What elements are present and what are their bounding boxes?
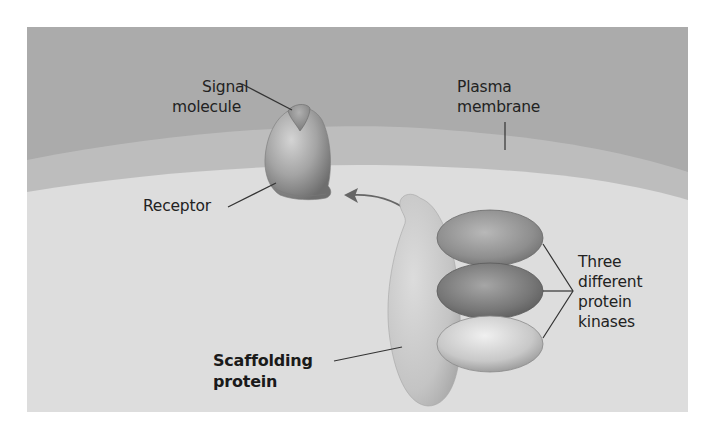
signal-molecule-label-line-2: molecule — [172, 97, 248, 117]
kinases-label-line-4: kinases — [578, 312, 642, 332]
scaffolding-protein-label: Scaffolding protein — [213, 350, 313, 392]
scaffolding-protein-label-line-1: Scaffolding — [213, 350, 313, 371]
plasma-membrane-label-line-2: membrane — [457, 97, 540, 117]
plasma-membrane-label-line-1: Plasma — [457, 77, 540, 97]
kinases-label-line-3: protein — [578, 292, 642, 312]
diagram-graphics — [0, 0, 715, 430]
panel-background — [27, 27, 688, 412]
receptor-label: Receptor — [143, 196, 211, 216]
protein-kinase-1 — [437, 210, 543, 266]
protein-kinases-label: Three different protein kinases — [578, 252, 642, 332]
protein-kinase-2 — [437, 263, 543, 319]
diagram-canvas: Signal molecule Plasma membrane Receptor… — [0, 0, 715, 430]
signal-molecule-label-line-1: Signal — [202, 77, 248, 97]
protein-kinase-3 — [437, 316, 543, 372]
kinases-label-line-2: different — [578, 272, 642, 292]
plasma-membrane-label: Plasma membrane — [457, 77, 540, 117]
scaffolding-protein-label-line-2: protein — [213, 371, 313, 392]
signal-molecule-label: Signal molecule — [172, 77, 248, 117]
kinases-label-line-1: Three — [578, 252, 642, 272]
